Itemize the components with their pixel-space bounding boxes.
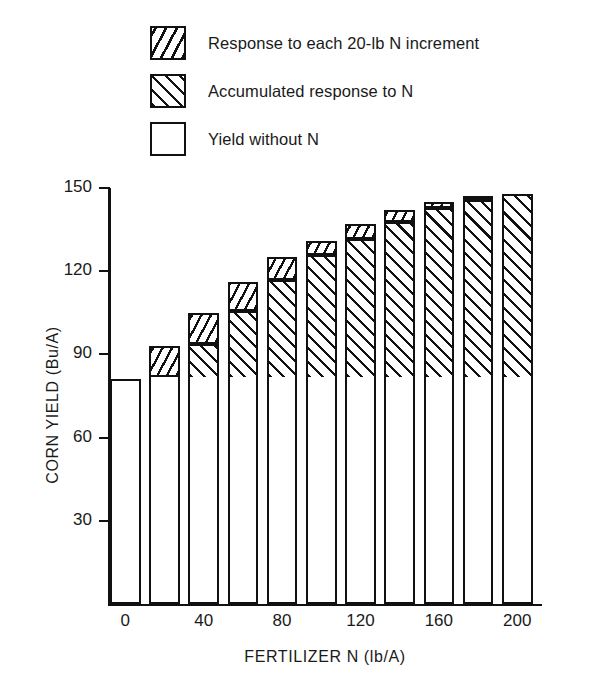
- bar-segment-increment: [190, 313, 217, 344]
- bar-segment-increment: [308, 241, 335, 256]
- x-axis-tick-label: 80: [252, 611, 312, 631]
- bar: [228, 282, 259, 604]
- bar-segment-accumulated: [347, 239, 374, 378]
- bar-segment-increment: [230, 282, 257, 311]
- x-axis-tick-label: 200: [487, 611, 547, 631]
- y-axis-tick: [99, 520, 110, 522]
- bar: [424, 202, 455, 604]
- bar-segment-increment: [151, 346, 178, 377]
- bar-segment-base: [112, 379, 139, 602]
- y-axis-tick-label: 120: [46, 260, 92, 280]
- bar-segment-increment: [504, 194, 531, 195]
- bar-segment-accumulated: [269, 280, 296, 377]
- bar-segment-base: [151, 377, 178, 602]
- bar: [306, 241, 337, 604]
- x-axis-title: FERTILIZER N (lb/A): [108, 648, 542, 666]
- bar-segment-base: [347, 377, 374, 602]
- y-axis-tick-label: 150: [46, 177, 92, 197]
- bar: [267, 257, 298, 604]
- bar-segment-accumulated: [386, 222, 413, 377]
- x-axis-tick-label: 40: [174, 611, 234, 631]
- bar: [502, 194, 533, 604]
- x-axis-tick-label: 120: [330, 611, 390, 631]
- figure: Response to each 20-lb N increment Accum…: [0, 0, 592, 697]
- bar-segment-base: [386, 377, 413, 602]
- bar-segment-increment: [347, 224, 374, 239]
- y-axis-tick: [99, 353, 110, 355]
- y-axis-tick: [99, 187, 110, 189]
- bar-segment-accumulated: [426, 208, 453, 377]
- bar-segment-accumulated: [190, 344, 217, 377]
- bar: [384, 210, 415, 604]
- x-axis-tick-label: 160: [409, 611, 469, 631]
- bar-segment-accumulated: [504, 194, 531, 377]
- y-axis-title: CORN YIELD (Bu/A): [44, 290, 62, 520]
- bar-segment-base: [308, 377, 335, 602]
- bar-segment-base: [269, 377, 296, 602]
- bar-segment-base: [426, 377, 453, 602]
- bar: [149, 346, 180, 604]
- bar-segment-base: [190, 377, 217, 602]
- bar: [188, 313, 219, 604]
- bar-segment-accumulated: [465, 200, 492, 377]
- bar-segment-base: [230, 377, 257, 602]
- bar: [463, 196, 494, 604]
- bar: [110, 379, 141, 604]
- y-axis-tick: [99, 437, 110, 439]
- bar-segment-increment: [426, 202, 453, 208]
- bar-segment-increment: [269, 257, 296, 280]
- bar-segment-increment: [386, 210, 413, 222]
- bar-segment-increment: [465, 196, 492, 200]
- bar-segment-accumulated: [230, 311, 257, 378]
- bar-segment-base: [504, 377, 531, 602]
- bar-segment-accumulated: [308, 255, 335, 377]
- bar: [345, 224, 376, 604]
- y-axis-tick: [99, 270, 110, 272]
- bar-segment-base: [465, 377, 492, 602]
- x-axis-tick-label: 0: [95, 611, 155, 631]
- plot-area: 306090120150 04080120160200 CORN YIELD (…: [0, 0, 592, 697]
